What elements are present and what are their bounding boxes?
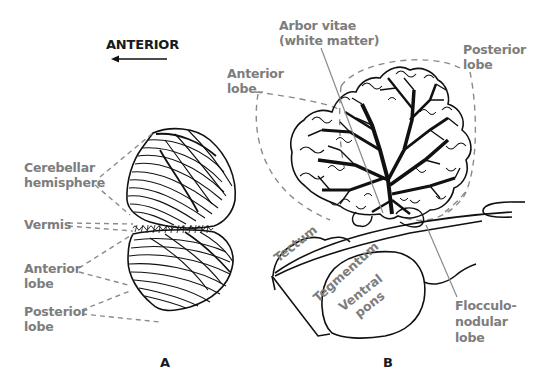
panel-letter-b: B	[383, 355, 393, 370]
anterior-arrow-icon	[111, 56, 167, 63]
label-anterior-lobe-b: Anterior lobe	[227, 66, 284, 96]
label-posterior-lobe-b: Posterior lobe	[463, 42, 526, 72]
label-vermis: Vermis	[24, 217, 71, 232]
panel-b-arbor-vitae-drawing	[291, 67, 471, 227]
label-posterior-lobe-a: Posterior lobe	[24, 304, 87, 334]
panel-letter-a: A	[160, 355, 170, 370]
label-cerebellar-hemisphere: Cerebellar hemisphere	[24, 160, 105, 190]
label-arbor-vitae: Arbor vitae (white matter)	[279, 18, 379, 48]
label-flocculonodular-lobe: Flocculo- nodular lobe	[455, 298, 516, 346]
cerebellum-diagram: ANTERIOR Cerebellar hemisphere Vermis An…	[0, 0, 542, 392]
label-anterior-lobe-a: Anterior lobe	[24, 261, 81, 291]
panel-a-cerebellum-drawing	[127, 129, 235, 311]
anterior-orientation-label: ANTERIOR	[106, 37, 179, 52]
